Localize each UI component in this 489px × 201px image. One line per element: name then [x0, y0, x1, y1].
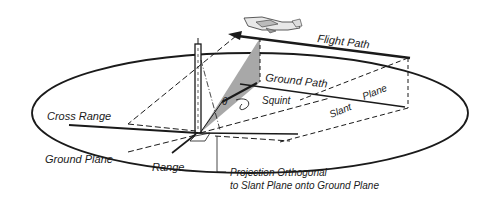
projection-leader: [217, 136, 226, 172]
flight-path-arrowhead: [228, 31, 242, 40]
label-ground-path: Ground Path: [265, 71, 328, 89]
label-projection-line1: Projection Orthogonal: [230, 167, 328, 178]
range-line: [198, 133, 298, 134]
vertical-pole: [195, 44, 201, 133]
label-squint: Squint: [262, 95, 292, 106]
label-ground-plane: Ground Plane: [45, 153, 113, 165]
label-slant: Slant: [328, 101, 354, 120]
label-plane: Plane: [361, 82, 389, 102]
label-projection-line2: to Slant Plane onto Ground Plane: [230, 180, 379, 191]
ground-plane-dash: [128, 135, 196, 152]
label-theta: θ: [222, 96, 228, 107]
sar-geometry-diagram: Flight Path Ground Path Squint θ Plane S…: [0, 0, 489, 201]
label-cross-range: Cross Range: [47, 110, 111, 122]
airplane-icon: [244, 17, 302, 33]
range-pointer: [172, 134, 196, 153]
label-range: Range: [152, 161, 184, 173]
range-line-dashed: [215, 136, 290, 141]
